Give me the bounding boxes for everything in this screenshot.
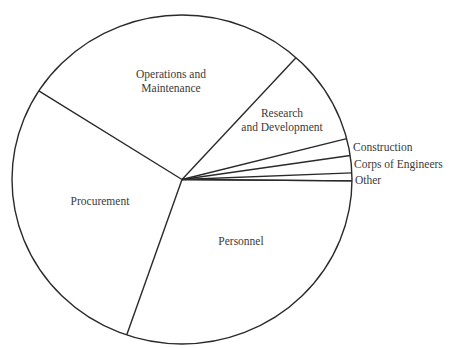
pie-chart: PersonnelProcurementOperations andMainte…	[0, 0, 462, 348]
slice-label: Other	[355, 174, 381, 186]
slice-label: Personnel	[218, 235, 263, 247]
slice-label: Construction	[353, 141, 413, 153]
slice-label: Corps of Engineers	[354, 158, 443, 171]
pie-slices	[12, 15, 352, 344]
slice-label: Procurement	[71, 195, 131, 207]
